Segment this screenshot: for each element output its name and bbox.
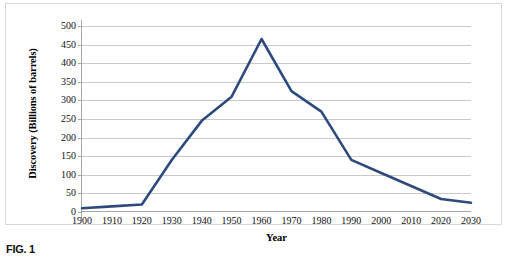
y-tick-mark — [78, 212, 82, 213]
chart-frame: Discovery (Billions of barrels) 05010015… — [5, 3, 502, 225]
y-tick-label: 100 — [46, 169, 76, 181]
y-tick-label: 150 — [46, 150, 76, 162]
y-axis-tick-labels: 050100150200250300350400450500 — [46, 20, 76, 218]
y-axis-title: Discovery (Billions of barrels) — [27, 14, 38, 214]
plot-area — [82, 26, 471, 212]
x-axis-tick-labels: 1900191019201930194019501960197019801990… — [82, 215, 471, 231]
y-tick-label: 500 — [46, 20, 76, 32]
y-tick-label: 400 — [46, 57, 76, 69]
x-tick-label: 2030 — [451, 215, 491, 226]
y-tick-label: 350 — [46, 76, 76, 88]
figure-caption: FIG. 1 — [6, 243, 35, 255]
y-tick-label: 300 — [46, 94, 76, 106]
figure-container: Discovery (Billions of barrels) 05010015… — [0, 0, 508, 262]
x-axis-title: Year — [82, 232, 471, 243]
y-tick-label: 250 — [46, 113, 76, 125]
y-tick-label: 50 — [46, 187, 76, 199]
y-tick-label: 200 — [46, 132, 76, 144]
discovery-line-series — [82, 26, 471, 212]
y-tick-label: 450 — [46, 39, 76, 51]
